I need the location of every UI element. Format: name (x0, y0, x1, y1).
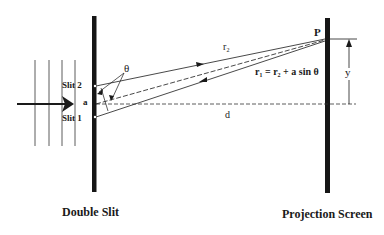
label-y: y (345, 67, 351, 78)
caption-double-slit: Double Slit (62, 206, 119, 218)
label-theta: θ (124, 63, 129, 74)
projection-screen (325, 18, 330, 193)
label-path-relation: r₁ = r₂ + a sin θ (255, 67, 319, 77)
label-slit-separation: a (83, 98, 88, 107)
incident-arrow-icon (17, 96, 74, 112)
y-arrow-icon (346, 39, 352, 47)
ray-arrow-icon (196, 62, 204, 67)
double-slit-barrier (92, 16, 97, 192)
label-point-p: P (314, 27, 321, 38)
ray-arrow-icon (199, 77, 207, 82)
theta-pointers (99, 73, 124, 111)
rays (96, 39, 325, 117)
double-slit-diagram (0, 0, 384, 235)
label-distance-d: d (225, 110, 230, 120)
label-r2: r₂ (223, 42, 230, 52)
label-slit2: Slit 2 (62, 81, 82, 90)
caption-projection-screen: Projection Screen (282, 208, 373, 220)
theta-arrow-icon (97, 89, 103, 95)
label-slit1: Slit 1 (62, 114, 82, 123)
